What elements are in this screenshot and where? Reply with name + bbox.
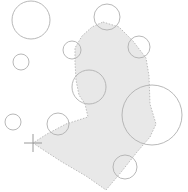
polygon-layer: [33, 22, 156, 190]
region-polygon[interactable]: [33, 22, 156, 190]
figure-svg: [0, 0, 188, 192]
circle-left-small-lower[interactable]: [5, 114, 21, 130]
circle-left-small-upper[interactable]: [13, 54, 29, 70]
figure-canvas: [0, 0, 188, 192]
marker-layer: [24, 134, 42, 152]
circle-top-left-large[interactable]: [12, 1, 50, 39]
